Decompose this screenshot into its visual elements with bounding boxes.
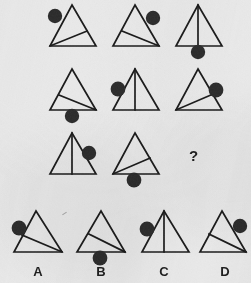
figure-r2c2 [107,66,165,116]
inner-line-bottomleft-to-right-edge [113,158,150,174]
option-b-figure[interactable] [71,207,133,267]
figure-option-a [8,207,70,259]
matrix-cell-r2c2[interactable] [107,66,165,116]
matrix-cell-r1c3[interactable] [170,2,228,60]
matrix-cell-r2c1[interactable] [44,66,102,124]
marker-circle-upper-left-edge [48,9,62,23]
option-a-label: A [28,265,48,278]
figure-r1c3 [170,2,228,60]
option-c-label: C [154,265,174,278]
figure-option-d [195,207,251,259]
option-d-label: D [215,265,235,278]
matrix-cell-r2c3[interactable] [170,66,228,116]
marker-circle-upper-right-edge [233,219,247,233]
figure-option-b [71,207,133,267]
marker-circle-upper-right-edge [82,146,96,160]
marker-circle-upper-right-edge [209,83,224,98]
inner-line-left-edge-to-bottomright [59,95,96,110]
triangle-outline [77,211,125,252]
figure-r1c2 [107,2,165,52]
triangle-outline [176,5,222,46]
figure-r2c3 [170,66,228,116]
option-b-label: B [91,265,111,278]
matrix-cell-r1c2[interactable] [107,2,165,52]
figure-r2c1 [44,66,102,124]
inner-line-bottomleft-to-right-edge [176,94,213,110]
marker-circle-upper-left-edge [140,222,155,237]
triangle-outline [113,133,159,174]
marker-circle-below-base-center [191,45,205,59]
missing-cell-question-mark[interactable]: ? [189,148,198,163]
marker-circle-upper-left-edge [12,221,27,236]
inner-line-bottomleft-to-right-edge [50,31,87,46]
marker-circle-upper-left-edge [111,82,126,97]
marker-circle-below-base-center [65,109,79,123]
option-d-figure[interactable] [195,207,251,259]
option-c-figure[interactable] [134,207,196,259]
figure-r1c1 [44,2,102,52]
inner-line-left-edge-to-bottomright [122,31,159,46]
marker-circle-upper-right-edge [146,11,160,25]
puzzle-page: ? A B [0,0,251,283]
figure-option-c [134,207,196,259]
figure-r3c1 [44,130,102,180]
marker-circle-below-base-center [127,173,142,188]
matrix-cell-r3c2[interactable] [107,130,165,188]
option-a-figure[interactable] [8,207,70,259]
matrix-cell-r1c1[interactable] [44,2,102,52]
triangle-outline [50,69,96,110]
figure-r3c2 [107,130,165,188]
matrix-cell-r3c1[interactable] [44,130,102,180]
